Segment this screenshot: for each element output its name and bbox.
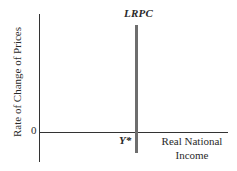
lrpc-diagram: LRPC 0 Y* Real National Income Rate of C…: [0, 0, 237, 171]
y-axis-label-text: Rate of Change of Prices: [11, 27, 23, 137]
x-axis-label-line2: Income: [152, 148, 232, 162]
lrpc-label: LRPC: [124, 7, 153, 19]
lrpc-vertical-line: [135, 25, 138, 153]
x-axis-label-line1: Real National: [152, 134, 232, 148]
potential-output-label: Y*: [119, 134, 131, 146]
x-axis: [39, 132, 228, 133]
x-axis-label: Real National Income: [152, 134, 232, 162]
origin-label: 0: [31, 124, 37, 136]
y-axis: [39, 14, 40, 162]
